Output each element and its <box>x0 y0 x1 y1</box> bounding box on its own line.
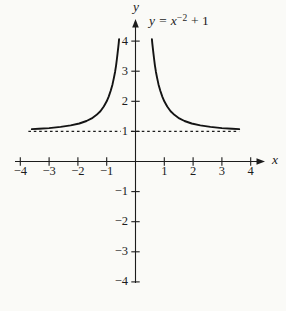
x-tick-label--4: −4 <box>14 165 27 178</box>
x-tick-label-1: 1 <box>161 165 167 178</box>
equation-exponent: −2 <box>177 13 188 23</box>
x-tick-label--2: −2 <box>71 165 84 178</box>
y-tick-label-4: 4 <box>120 35 129 48</box>
y-tick-label--1: −1 <box>113 185 129 198</box>
equation-tail: + 1 <box>188 13 209 28</box>
label-layer: y x y = x−2 + 1 −4−3−2−112344321−1−2−3−4 <box>0 0 286 311</box>
y-tick-label-1: 1 <box>120 125 129 138</box>
equation-base: y = x <box>149 13 177 28</box>
x-tick-label-4: 4 <box>248 165 254 178</box>
x-axis-letter: x <box>272 153 278 167</box>
x-tick-label-3: 3 <box>219 165 225 178</box>
y-tick-label--2: −2 <box>113 215 129 228</box>
y-tick-label--3: −3 <box>113 245 129 258</box>
function-plot-figure: y x y = x−2 + 1 −4−3−2−112344321−1−2−3−4 <box>0 0 286 311</box>
x-tick-label-2: 2 <box>190 165 196 178</box>
y-axis-letter: y <box>133 0 139 14</box>
x-tick-label--1: −1 <box>100 165 113 178</box>
y-tick-label-3: 3 <box>120 65 129 78</box>
y-tick-label--4: −4 <box>113 275 129 288</box>
x-tick-label--3: −3 <box>42 165 55 178</box>
y-tick-label-2: 2 <box>120 95 129 108</box>
equation-label: y = x−2 + 1 <box>149 13 209 30</box>
